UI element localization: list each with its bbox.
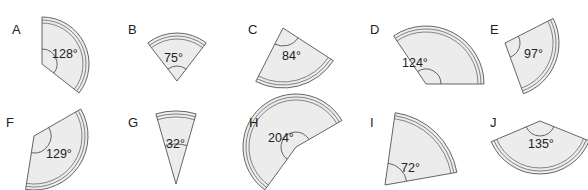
- sector-h: H204°: [243, 94, 342, 190]
- angle-label: 204°: [268, 131, 294, 145]
- sector-letter: A: [12, 22, 21, 37]
- sector-letter: G: [128, 115, 138, 130]
- angle-label: 128°: [52, 47, 78, 61]
- angle-label: 129°: [46, 147, 72, 161]
- sector-f: F129°: [6, 109, 88, 190]
- sector-b: B75°: [128, 22, 206, 81]
- sector-c: C84°: [248, 22, 333, 88]
- sector-j: J135°: [490, 115, 588, 174]
- sector-letter: F: [6, 115, 14, 130]
- sector-g: G32°: [128, 111, 196, 184]
- angle-label: 75°: [164, 51, 183, 65]
- sector-shape: [385, 113, 457, 185]
- angle-label: 135°: [528, 137, 554, 151]
- sector-letter: E: [490, 22, 499, 37]
- sector-letter: B: [128, 22, 137, 37]
- sector-letter: C: [248, 22, 257, 37]
- sector-i: I72°: [370, 113, 457, 185]
- angle-label: 84°: [282, 49, 301, 63]
- angle-label: 72°: [401, 161, 420, 175]
- sector-d: D124°: [370, 22, 484, 84]
- angle-label: 32°: [166, 137, 185, 151]
- sector-letter: J: [490, 115, 497, 130]
- sector-letter: D: [370, 22, 379, 37]
- sector-a: A128°: [12, 17, 89, 93]
- sector-e: E97°: [490, 18, 559, 93]
- sector-diagram: A128°B75°C84°D124°E97°F129°G32°H204°I72°…: [0, 0, 588, 190]
- angle-label: 124°: [402, 56, 428, 70]
- sector-letter: I: [370, 115, 374, 130]
- sector-letter: H: [249, 115, 258, 130]
- sectors-layer: A128°B75°C84°D124°E97°F129°G32°H204°I72°…: [6, 17, 588, 190]
- angle-label: 97°: [524, 47, 543, 61]
